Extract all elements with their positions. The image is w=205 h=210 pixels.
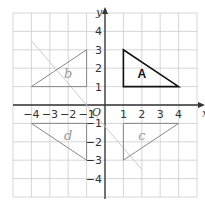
grid-svg: Abcd −4−3−2−112344321−1−2−3−4Oxy bbox=[0, 0, 205, 210]
y-axis-label: y bbox=[95, 6, 103, 19]
tick-labels: −4−3−2−112344321−1−2−3−4Oxy bbox=[23, 6, 205, 186]
triangle-label-b: b bbox=[64, 66, 72, 81]
coordinate-grid-figure: Abcd −4−3−2−112344321−1−2−3−4Oxy bbox=[0, 0, 205, 210]
origin-label: O bbox=[92, 106, 101, 119]
y-arrow-icon bbox=[102, 7, 108, 14]
y-tick-label: 3 bbox=[95, 44, 102, 57]
x-tick-label: 4 bbox=[175, 108, 182, 121]
y-tick-label: −3 bbox=[86, 154, 102, 167]
x-tick-label: −4 bbox=[23, 108, 39, 121]
x-axis-label: x bbox=[202, 107, 205, 120]
x-tick-label: −3 bbox=[42, 108, 58, 121]
triangle-label-d: d bbox=[64, 128, 72, 143]
x-tick-label: 2 bbox=[138, 108, 145, 121]
x-tick-label: 3 bbox=[157, 108, 164, 121]
y-tick-label: 4 bbox=[95, 25, 102, 38]
triangle-label-c: c bbox=[138, 128, 146, 143]
axes bbox=[13, 7, 205, 199]
y-tick-label: −1 bbox=[86, 117, 102, 130]
x-tick-label: −2 bbox=[60, 108, 76, 121]
x-tick-label: 1 bbox=[120, 108, 127, 121]
y-tick-label: 1 bbox=[95, 81, 102, 94]
triangle-label-a: A bbox=[137, 67, 146, 81]
y-tick-label: 2 bbox=[95, 62, 102, 75]
y-tick-label: −4 bbox=[86, 173, 102, 186]
y-tick-label: −2 bbox=[86, 136, 102, 149]
